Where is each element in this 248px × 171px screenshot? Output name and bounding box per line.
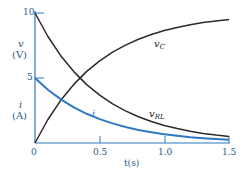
curve-label-vrl-sub: RL xyxy=(155,113,165,121)
x-tick-label-1.5: 1.5 xyxy=(222,147,236,158)
curve-i xyxy=(35,78,229,140)
y-tick-label-5: 5 xyxy=(27,72,33,83)
y-label-i-unit: (A) xyxy=(12,110,27,121)
curve-label-vc-sub: C xyxy=(160,43,165,51)
y-label-i: i xyxy=(19,99,22,110)
plot-area xyxy=(0,0,248,171)
curve-vrl xyxy=(35,13,229,137)
x-axis-label: t(s) xyxy=(124,158,139,169)
x-tick-label-0.5: 0.5 xyxy=(93,147,107,158)
x-tick-label-1.0: 1.0 xyxy=(158,147,172,158)
x-tick-label-0: 0 xyxy=(31,147,37,158)
curve-vc xyxy=(35,20,229,144)
y-label-v: v xyxy=(18,38,24,49)
chart-root: v (V) i (A) 10 5 0 0.5 1.0 1.5 t(s) vC v… xyxy=(0,0,248,171)
curve-label-vrl: vRL xyxy=(149,108,165,123)
curve-label-vc: vC xyxy=(154,38,165,53)
y-tick-label-10: 10 xyxy=(23,7,34,18)
curves xyxy=(35,13,229,143)
curve-label-i: i xyxy=(92,108,95,119)
y-label-v-unit: (V) xyxy=(12,49,27,60)
